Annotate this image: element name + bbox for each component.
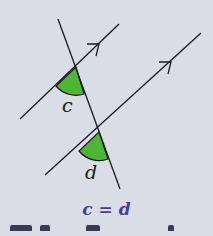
parallel-arrow-icon-2 xyxy=(159,62,171,74)
equation-text: c = d xyxy=(0,199,213,219)
angle-label-c: c xyxy=(62,94,73,116)
cut-off-text-line xyxy=(0,225,213,236)
angle-label-d: d xyxy=(85,161,97,183)
angle-d-wedge xyxy=(79,132,108,161)
diagram-canvas: c d c = d xyxy=(0,0,213,236)
